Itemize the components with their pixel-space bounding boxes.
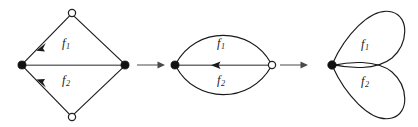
lens-label-f2: f2 [217,74,225,87]
wedge-label-f1-sub: 1 [365,43,369,52]
map-arrow-2-head [301,62,309,69]
lens-label-f1: f1 [217,37,225,50]
diamond-bottom-vertex [68,113,75,120]
wedge-label-f2: f2 [361,75,369,88]
diamond-label-f2-sub: 2 [66,79,70,88]
lens-label-f2-sub: 2 [221,79,225,88]
diamond-left-vertex [18,61,26,69]
lens-left-vertex [171,61,179,69]
wedge-base-vertex [328,61,337,70]
edge-bottom-left-arrowhead [36,79,46,88]
wedge-label-f1: f1 [361,38,369,51]
edge-bottom-right [72,66,124,115]
diamond-graph [18,9,129,120]
diamond-label-f1-sub: 1 [66,42,70,51]
figure-svg [0,0,418,127]
map-arrow-1-head [158,62,166,69]
wedge-of-loops-graph [328,11,405,118]
lens-right-vertex [268,61,275,68]
wedge-label-f2-sub: 2 [365,80,369,89]
lens-label-f1-sub: 1 [221,42,225,51]
loop-lower [333,62,405,118]
diamond-label-f2: f2 [62,74,70,87]
diamond-right-vertex [121,61,129,69]
edge-top-right [72,15,124,64]
figure-root: f1 f2 f1 f2 f1 f2 [0,0,418,127]
map-arrow-1 [137,62,165,69]
edge-top-left-arrowhead [36,43,46,51]
diamond-top-vertex [68,9,75,16]
map-arrow-2 [280,62,308,69]
diamond-label-f1: f1 [62,37,70,50]
